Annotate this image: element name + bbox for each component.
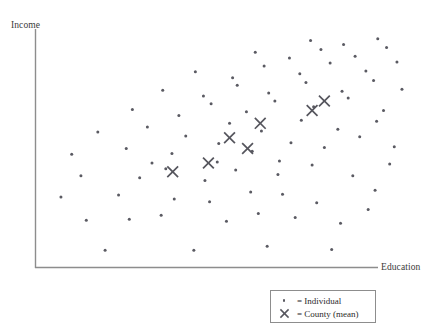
legend-item-county: = County (mean): [271, 306, 375, 321]
individual-point: [228, 122, 231, 125]
individual-point: [177, 114, 180, 117]
individual-point: [382, 109, 385, 112]
individual-point: [70, 153, 73, 156]
individual-point: [347, 96, 350, 99]
individual-point: [128, 218, 131, 221]
individual-point: [319, 48, 322, 51]
individual-point: [385, 46, 388, 49]
individual-point: [330, 248, 333, 251]
individual-point: [161, 89, 164, 92]
scatter-plot-figure: Income Education = Individual = County (…: [0, 0, 434, 335]
county-mean-point: [242, 143, 253, 154]
individual-point: [231, 76, 234, 79]
individual-point: [267, 92, 270, 95]
individual-point: [354, 55, 357, 58]
individual-point: [203, 179, 206, 182]
individual-point: [192, 249, 195, 252]
individual-point: [273, 99, 276, 102]
legend-dot-icon: [271, 299, 297, 302]
individual-point: [170, 152, 173, 155]
individual-point: [138, 176, 141, 179]
individual-point: [208, 200, 211, 203]
individual-point: [225, 220, 228, 223]
county-mean-point: [203, 158, 214, 169]
individual-point: [85, 219, 88, 222]
individual-point: [376, 37, 379, 40]
individual-point: [294, 216, 297, 219]
county-mean-points-group: [167, 96, 329, 178]
individual-point: [131, 108, 134, 111]
individual-point: [59, 195, 62, 198]
individual-point: [257, 212, 260, 215]
individual-point: [266, 245, 269, 248]
plot-canvas: [0, 0, 434, 335]
legend-x-cross-icon: [271, 308, 297, 319]
individual-point: [393, 145, 396, 148]
individual-point: [375, 120, 378, 123]
individual-point: [278, 160, 281, 163]
individual-point: [289, 141, 292, 144]
individual-point: [281, 193, 284, 196]
individual-point: [96, 130, 99, 133]
individual-point: [309, 39, 312, 42]
county-mean-point: [319, 96, 330, 107]
individual-point: [336, 128, 339, 131]
individual-points-group: [59, 37, 403, 252]
legend-label-county: = County (mean): [297, 309, 359, 319]
individual-point: [164, 167, 167, 170]
individual-point: [339, 222, 342, 225]
individual-point: [263, 65, 266, 68]
individual-point: [364, 69, 367, 72]
individual-point: [400, 88, 403, 91]
individual-point: [249, 191, 252, 194]
individual-point: [173, 198, 176, 201]
individual-point: [298, 72, 301, 75]
individual-point: [234, 168, 237, 171]
individual-point: [288, 57, 291, 60]
individual-point: [160, 214, 163, 217]
individual-point: [217, 142, 220, 145]
individual-point: [184, 134, 187, 137]
individual-point: [329, 61, 332, 64]
individual-point: [210, 102, 213, 105]
individual-point: [358, 135, 361, 138]
legend: = Individual = County (mean): [270, 290, 376, 323]
individual-point: [150, 161, 153, 164]
individual-point: [323, 146, 326, 149]
individual-point: [304, 81, 307, 84]
individual-point: [236, 84, 239, 87]
individual-point: [125, 147, 128, 150]
axes-group: [35, 29, 378, 268]
individual-point: [374, 189, 377, 192]
county-mean-point: [307, 105, 318, 116]
county-mean-point: [224, 132, 235, 143]
individual-point: [104, 249, 107, 252]
individual-point: [341, 90, 344, 93]
individual-point: [372, 79, 375, 82]
individual-point: [202, 95, 205, 98]
individual-point: [395, 61, 398, 64]
individual-point: [117, 194, 120, 197]
individual-point: [79, 174, 82, 177]
individual-point: [146, 126, 149, 129]
individual-point: [254, 51, 257, 54]
individual-point: [216, 161, 219, 164]
x-axis-title: Education: [381, 262, 420, 272]
individual-point: [194, 70, 197, 73]
individual-point: [351, 174, 354, 177]
legend-label-individual: = Individual: [297, 296, 341, 306]
individual-point: [388, 163, 391, 166]
individual-point: [245, 110, 248, 113]
individual-point: [276, 173, 279, 176]
individual-point: [367, 208, 370, 211]
county-mean-point: [167, 166, 178, 177]
county-mean-point: [255, 118, 266, 129]
individual-point: [300, 119, 303, 122]
y-axis-title: Income: [11, 20, 40, 30]
individual-point: [260, 130, 263, 133]
individual-point: [311, 164, 314, 167]
individual-point: [342, 43, 345, 46]
individual-point: [315, 201, 318, 204]
